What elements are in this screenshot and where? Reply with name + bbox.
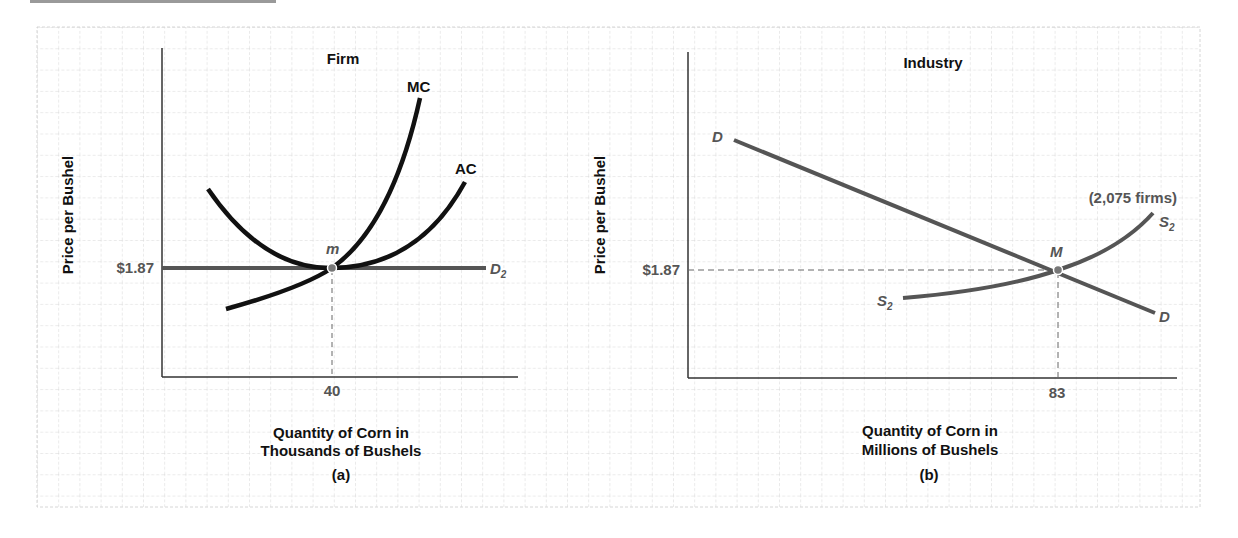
panel-b-demand-label-bottom: D [1159,308,1170,325]
panel-a-mc-label: MC [407,78,430,95]
panel-b-supply-note: (2,075 firms) [1089,189,1177,206]
panel-b-demand-label-top: D [712,128,723,145]
panel-a-title: Firm [327,50,360,67]
panel-b-equilibrium-point [1054,266,1063,275]
panel-b-price-tick: $1.87 [642,261,680,278]
panel-b-point-label: M [1050,243,1063,260]
panel-a-price-tick: $1.87 [116,259,154,276]
panel-b-x-label-line1: Quantity of Corn in [862,422,998,439]
panel-a-caption: (a) [332,466,350,483]
panel-b-x-label-line2: Millions of Bushels [862,441,999,458]
panel-a-x-label-line2: Thousands of Bushels [261,442,422,459]
panel-b-caption: (b) [919,466,938,483]
panel-a-x-label-line1: Quantity of Corn in [273,424,409,441]
panel-a-quantity-tick: 40 [324,382,341,399]
panel-b-title: Industry [903,54,963,71]
panel-a-y-label: Price per Bushel [59,156,76,274]
figure: Firm Price per Bushel $1.87 D2 AC MC m 4… [0,0,1238,538]
panel-b-y-label: Price per Bushel [591,156,608,274]
panel-a-equilibrium-point [328,264,337,273]
panel-a-ac-label: AC [455,160,477,177]
panel-a-point-label: m [326,240,339,257]
panel-b-quantity-tick: 83 [1049,384,1066,401]
